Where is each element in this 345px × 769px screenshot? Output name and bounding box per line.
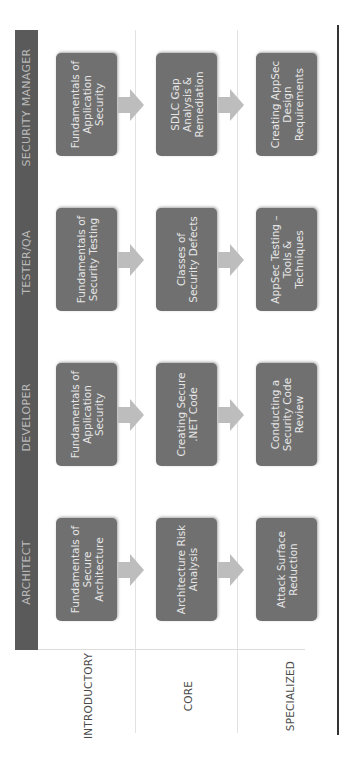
column-header-architect: ARCHITECT <box>15 495 38 650</box>
box-architect-introductory: Fundamentals of Secure Architecture <box>56 518 117 621</box>
arrow-down-icon <box>218 397 244 433</box>
arrow-down-icon <box>218 242 244 278</box>
box-architect-core: Architecture Risk Analysis <box>156 518 217 621</box>
box-developer-core: Creating Secure .NET Code <box>156 363 217 466</box>
box-tester-specialized: AppSec Testing – Tools & Techniques <box>256 208 317 311</box>
arrow-down-icon <box>118 397 144 433</box>
box-manager-core: SDLC Gap Analysis & Remediation <box>156 53 217 156</box>
box-tester-core: Classes of Security Defects <box>156 208 217 311</box>
column-header-security-manager: SECURITY MANAGER <box>15 30 38 185</box>
row-divider-1 <box>135 30 136 733</box>
arrow-down-icon <box>118 552 144 588</box>
column-header-tester: TESTER/QA <box>15 185 38 340</box>
box-manager-specialized: Creating AppSec Design Requirements <box>256 53 317 156</box>
row-divider-2 <box>237 30 238 733</box>
learning-path-diagram: ARCHITECT DEVELOPER TESTER/QA SECURITY M… <box>0 0 345 769</box>
row-label-core: CORE <box>182 653 194 739</box>
arrow-down-icon <box>118 87 144 123</box>
arrow-down-icon <box>118 242 144 278</box>
bottom-rule <box>337 25 339 735</box>
box-architect-specialized: Attack Surface Reduction <box>256 518 317 621</box>
row-label-divider <box>38 649 305 650</box>
row-label-introductory: INTRODUCTORY <box>82 653 94 739</box>
box-manager-introductory: Fundamentals of Application Security <box>56 53 117 156</box>
box-developer-introductory: Fundamentals of Application Security <box>56 363 117 466</box>
arrow-down-icon <box>218 87 244 123</box>
arrow-down-icon <box>218 552 244 588</box>
box-tester-introductory: Fundamentals of Security Testing <box>56 208 117 311</box>
box-developer-specialized: Conducting a Security Code Review <box>256 363 317 466</box>
column-header-developer: DEVELOPER <box>15 340 38 495</box>
row-label-specialized: SPECIALIZED <box>284 653 296 739</box>
